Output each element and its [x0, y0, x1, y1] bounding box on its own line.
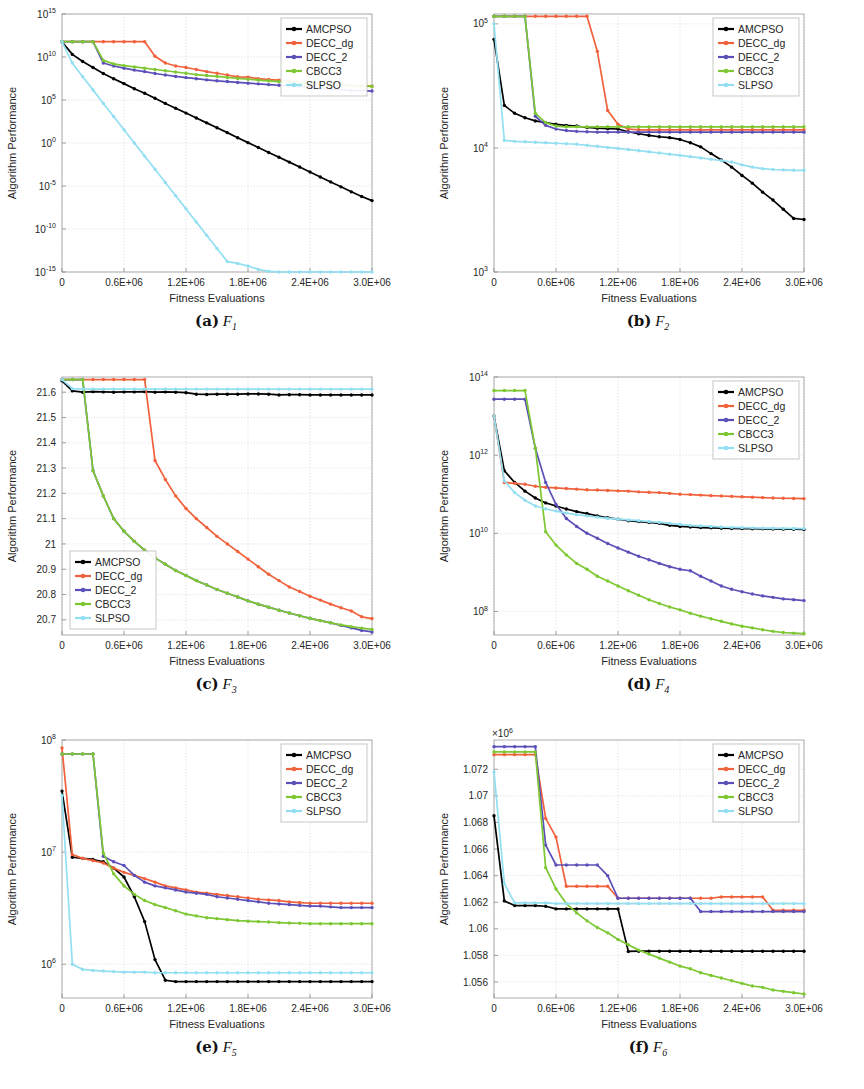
legend-label-DECC_2: DECC_2 [738, 51, 780, 63]
svg-text:0: 0 [59, 277, 65, 288]
caption-symbol-a: F [219, 313, 232, 329]
svg-text:10-5: 10-5 [39, 179, 56, 192]
svg-text:2.4E+06: 2.4E+06 [291, 277, 329, 288]
svg-text:1.2E+06: 1.2E+06 [599, 277, 637, 288]
panel-f: 1.0721.071.0681.0661.0641.0621.061.0581.… [432, 726, 864, 1089]
svg-text:1.8E+06: 1.8E+06 [661, 640, 699, 651]
caption-b: (b) F2 [432, 312, 864, 332]
y-axis-multiplier: ×106 [492, 727, 513, 740]
svg-text:20.9: 20.9 [37, 564, 57, 575]
svg-text:1.8E+06: 1.8E+06 [229, 640, 267, 651]
svg-text:0.6E+06: 0.6E+06 [105, 1003, 143, 1014]
plot-area-d: 10141012101010800.6E+061.2E+061.8E+062.4… [432, 363, 864, 668]
caption-symbol-e: F [219, 1039, 232, 1055]
svg-text:2.4E+06: 2.4E+06 [723, 1003, 761, 1014]
svg-text:0.6E+06: 0.6E+06 [537, 640, 575, 651]
svg-text:3.0E+06: 3.0E+06 [785, 1003, 823, 1014]
svg-text:0.6E+06: 0.6E+06 [105, 277, 143, 288]
svg-text:2.4E+06: 2.4E+06 [723, 640, 761, 651]
caption-subscript-c: 3 [232, 684, 237, 695]
legend: AMCPSODECC_dgDECC_2CBCC3SLPSO [713, 744, 799, 822]
caption-letter-b: (b) [627, 312, 652, 330]
legend-label-SLPSO: SLPSO [738, 79, 773, 91]
legend-label-AMCPSO: AMCPSO [738, 23, 784, 35]
svg-text:10-15: 10-15 [35, 265, 56, 278]
x-axis-title: Fitness Evaluations [601, 655, 697, 667]
svg-text:1.8E+06: 1.8E+06 [229, 1003, 267, 1014]
legend-label-AMCPSO: AMCPSO [738, 386, 784, 398]
svg-text:1.2E+06: 1.2E+06 [599, 640, 637, 651]
legend-label-DECC_dg: DECC_dg [738, 37, 785, 49]
plot-area-a: 1015101010510010-510-1010-1500.6E+061.2E… [0, 0, 432, 305]
legend-label-AMCPSO: AMCPSO [306, 749, 352, 761]
caption-letter-d: (d) [627, 675, 652, 693]
legend-label-DECC_dg: DECC_dg [306, 37, 353, 49]
legend-label-DECC_dg: DECC_dg [738, 400, 785, 412]
caption-symbol-c: F [219, 676, 232, 692]
svg-text:21.5: 21.5 [37, 412, 57, 423]
legend-label-DECC_dg: DECC_dg [738, 763, 785, 775]
svg-text:1.8E+06: 1.8E+06 [661, 1003, 699, 1014]
svg-text:1010: 1010 [37, 50, 56, 63]
chart-f: 1.0721.071.0681.0661.0641.0621.061.0581.… [432, 726, 864, 1031]
figure-grid: 1015101010510010-510-1010-1500.6E+061.2E… [0, 0, 864, 1089]
svg-text:1.056: 1.056 [463, 977, 488, 988]
svg-text:107: 107 [41, 845, 56, 858]
svg-text:10-10: 10-10 [35, 222, 56, 235]
svg-text:1.07: 1.07 [469, 790, 489, 801]
caption-c: (c) F3 [0, 675, 432, 695]
svg-text:1.2E+06: 1.2E+06 [599, 1003, 637, 1014]
caption-subscript-a: 1 [232, 321, 237, 332]
caption-f: (f) F6 [432, 1038, 864, 1058]
y-axis-title: Algorithm Performance [6, 450, 18, 563]
svg-text:2.4E+06: 2.4E+06 [291, 1003, 329, 1014]
svg-text:0.6E+06: 0.6E+06 [537, 1003, 575, 1014]
legend-label-CBCC3: CBCC3 [738, 65, 774, 77]
svg-text:20.7: 20.7 [37, 614, 57, 625]
y-axis-title: Algorithm Performance [6, 87, 18, 200]
svg-text:0.6E+06: 0.6E+06 [105, 640, 143, 651]
x-axis-title: Fitness Evaluations [169, 1018, 265, 1030]
panel-d: 10141012101010800.6E+061.2E+061.8E+062.4… [432, 363, 864, 726]
legend-label-CBCC3: CBCC3 [95, 598, 131, 610]
x-axis-title: Fitness Evaluations [601, 292, 697, 304]
svg-text:0: 0 [491, 640, 497, 651]
legend-label-SLPSO: SLPSO [738, 805, 773, 817]
svg-text:1.064: 1.064 [463, 870, 488, 881]
chart-a: 1015101010510010-510-1010-1500.6E+061.2E… [0, 0, 432, 305]
svg-text:100: 100 [41, 136, 56, 149]
svg-text:1.068: 1.068 [463, 817, 488, 828]
caption-e: (e) F5 [0, 1038, 432, 1058]
svg-text:1.062: 1.062 [463, 897, 488, 908]
caption-subscript-f: 6 [662, 1047, 667, 1058]
caption-subscript-e: 5 [232, 1047, 237, 1058]
legend: AMCPSODECC_dgDECC_2CBCC3SLPSO [281, 744, 367, 822]
legend-label-DECC_2: DECC_2 [306, 51, 348, 63]
svg-text:1.058: 1.058 [463, 950, 488, 961]
legend-label-DECC_2: DECC_2 [738, 414, 780, 426]
legend-label-AMCPSO: AMCPSO [306, 23, 352, 35]
y-axis-ticks: 1.0721.071.0681.0661.0641.0621.061.0581.… [463, 764, 498, 988]
svg-text:3.0E+06: 3.0E+06 [353, 640, 391, 651]
plot-area-f: 1.0721.071.0681.0661.0641.0621.061.0581.… [432, 726, 864, 1031]
caption-symbol-f: F [649, 1039, 662, 1055]
y-axis-title: Algorithm Performance [438, 87, 450, 200]
chart-b: 10510410300.6E+061.2E+061.8E+062.4E+063.… [432, 0, 864, 305]
chart-c: 21.621.521.421.321.221.12120.920.820.700… [0, 363, 432, 668]
svg-text:3.0E+06: 3.0E+06 [353, 277, 391, 288]
legend-label-SLPSO: SLPSO [738, 442, 773, 454]
caption-letter-e: (e) [195, 1038, 219, 1056]
legend-label-CBCC3: CBCC3 [738, 791, 774, 803]
svg-text:21.3: 21.3 [37, 463, 57, 474]
legend: AMCPSODECC_dgDECC_2CBCC3SLPSO [70, 551, 156, 629]
svg-text:105: 105 [473, 17, 488, 30]
x-axis-title: Fitness Evaluations [169, 292, 265, 304]
svg-text:20.8: 20.8 [37, 589, 57, 600]
svg-text:108: 108 [473, 605, 488, 618]
panel-c: 21.621.521.421.321.221.12120.920.820.700… [0, 363, 432, 726]
legend-label-CBCC3: CBCC3 [738, 428, 774, 440]
caption-letter-f: (f) [629, 1038, 650, 1056]
y-axis-title: Algorithm Performance [438, 813, 450, 926]
legend-label-SLPSO: SLPSO [306, 79, 341, 91]
caption-a: (a) F1 [0, 312, 432, 332]
